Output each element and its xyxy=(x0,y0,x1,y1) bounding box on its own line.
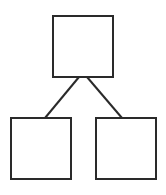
edge-root-right xyxy=(87,77,122,118)
node-root xyxy=(53,16,113,77)
node-right-child xyxy=(96,118,156,179)
node-left-child xyxy=(11,118,71,179)
edge-root-left xyxy=(45,77,79,118)
tree-diagram xyxy=(0,0,166,195)
